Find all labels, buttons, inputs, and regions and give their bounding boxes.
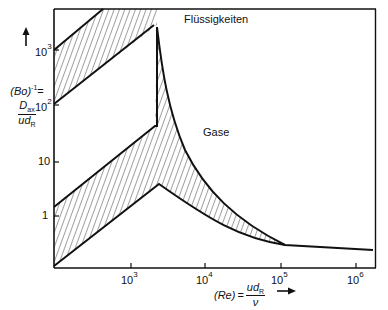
gases-upper-curve	[157, 27, 373, 250]
liquids-band	[54, 9, 157, 104]
y-tick-1: 1	[42, 210, 48, 221]
x-tick-100000: 105	[271, 273, 288, 286]
chart-canvas	[0, 0, 388, 310]
y-tick-10: 10	[38, 156, 50, 167]
liquids-region-label: Flüssigkeiten	[184, 14, 248, 25]
x-axis-arrow-icon	[277, 288, 296, 295]
x-tick-1000000: 106	[347, 273, 364, 286]
y-tick-1000: 103	[35, 45, 52, 58]
y-axis-arrow-icon	[23, 27, 30, 46]
y-axis-label: (Bo)-1= Dax udR	[2, 84, 52, 128]
gases-region-label: Gase	[203, 127, 229, 138]
x-tick-1000: 103	[121, 273, 138, 286]
x-axis-label: (Re)= udR ν	[214, 281, 265, 308]
x-tick-10000: 104	[196, 273, 213, 286]
